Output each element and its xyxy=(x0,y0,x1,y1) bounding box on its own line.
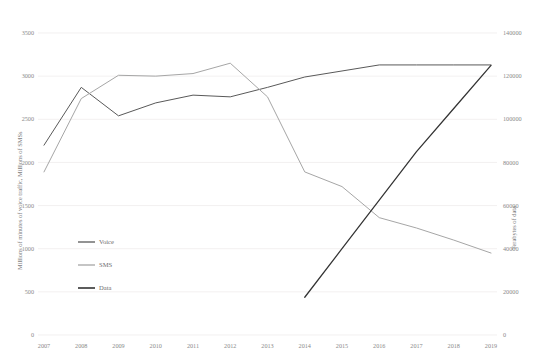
x-axis-tick-label: 2014 xyxy=(299,342,311,349)
x-axis-tick-label: 2016 xyxy=(373,342,385,349)
chart-background xyxy=(0,0,536,363)
x-axis-tick-label: 2012 xyxy=(224,342,236,349)
legend-label-voice: Voice xyxy=(99,238,114,245)
x-axis-tick-label: 2018 xyxy=(448,342,460,349)
y-axis-right-tick-label: 120000 xyxy=(503,72,522,79)
y-axis-right-title: Terabytes of data xyxy=(510,206,517,250)
y-axis-left-tick-label: 2500 xyxy=(22,115,34,122)
line-chart: 0500100015002000250030003500 02000040000… xyxy=(0,0,536,363)
legend-label-data: Data xyxy=(99,284,112,291)
y-axis-left-tick-label: 1000 xyxy=(22,245,34,252)
legend-label-sms: SMS xyxy=(99,261,113,268)
x-axis-tick-label: 2007 xyxy=(38,342,50,349)
y-axis-left-title: Millions of minutes of voice traffic, Mi… xyxy=(16,131,23,270)
x-axis-tick-label: 2009 xyxy=(112,342,124,349)
y-axis-left-tick-label: 500 xyxy=(25,288,34,295)
y-axis-right-tick-label: 80000 xyxy=(503,159,518,166)
y-axis-left-tick-label: 1500 xyxy=(22,202,34,209)
x-axis-tick-label: 2011 xyxy=(187,342,199,349)
y-axis-right-tick-label: 100000 xyxy=(503,115,522,122)
y-axis-left-tick-label: 3000 xyxy=(22,72,34,79)
x-axis-tick-label: 2017 xyxy=(410,342,422,349)
y-axis-left-tick-label: 3500 xyxy=(22,29,34,36)
x-axis-tick-label: 2019 xyxy=(485,342,497,349)
y-axis-right-tick-label: 140000 xyxy=(503,29,522,36)
chart-container: 0500100015002000250030003500 02000040000… xyxy=(0,0,536,363)
x-axis-tick-label: 2015 xyxy=(336,342,348,349)
y-axis-left-tick-label: 0 xyxy=(31,331,34,338)
x-axis-tick-label: 2008 xyxy=(75,342,87,349)
y-axis-right-tick-label: 20000 xyxy=(503,288,518,295)
y-axis-right-tick-label: 0 xyxy=(503,331,506,338)
x-axis-tick-label: 2010 xyxy=(150,342,162,349)
x-axis-tick-label: 2013 xyxy=(261,342,273,349)
y-axis-left-tick-label: 2000 xyxy=(22,159,34,166)
